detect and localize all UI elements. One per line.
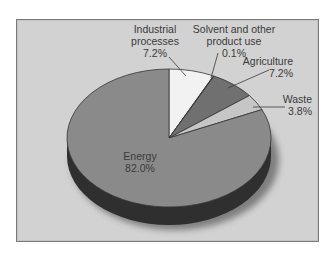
- label-value: 3.8%: [288, 105, 312, 117]
- label-name: product use: [207, 35, 262, 47]
- leader-solvent-and-other-product-use: [211, 53, 218, 78]
- label-waste: Waste3.8%: [283, 93, 313, 117]
- label-solvent-and-other-product-use: Solvent and otherproduct use0.1%: [193, 23, 276, 59]
- label-agriculture: Agriculture7.2%: [243, 55, 293, 79]
- label-name: Solvent and other: [193, 23, 276, 35]
- label-value: 7.2%: [143, 47, 167, 59]
- label-name: Industrial: [134, 23, 177, 35]
- pie-slices: [67, 69, 271, 207]
- label-value: 7.2%: [269, 67, 293, 79]
- label-energy: Energy82.0%: [123, 150, 157, 174]
- pie-chart: Industrialprocesses7.2%Solvent and other…: [0, 0, 332, 255]
- label-name: processes: [131, 35, 179, 47]
- label-name: Agriculture: [243, 55, 293, 67]
- label-name: Waste: [283, 93, 313, 105]
- label-value: 82.0%: [125, 162, 155, 174]
- label-name: Energy: [123, 150, 157, 162]
- label-industrial-processes: Industrialprocesses7.2%: [131, 23, 179, 59]
- leader-agriculture: [228, 70, 269, 88]
